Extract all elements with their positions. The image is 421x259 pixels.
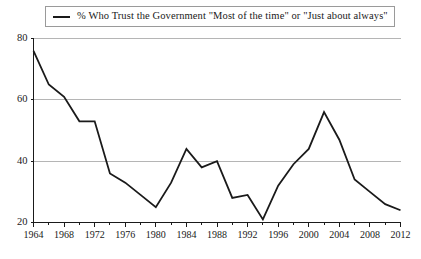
axis-lines xyxy=(34,39,401,223)
x-axis-tick-label: 2004 xyxy=(322,230,356,240)
y-axis-tick-label: 80 xyxy=(4,33,28,44)
x-axis-tick-label: 1968 xyxy=(47,230,81,240)
x-axis-tick-label: 1972 xyxy=(78,230,112,240)
x-axis-tick-label: 1980 xyxy=(139,230,173,240)
x-axis-tick-label: 1992 xyxy=(231,230,265,240)
gridlines xyxy=(34,39,401,162)
x-axis-tick-label: 1996 xyxy=(261,230,295,240)
trust-in-government-chart: % Who Trust the Government "Most of the … xyxy=(0,0,421,259)
x-axis-tick-label: 2008 xyxy=(353,230,387,240)
y-axis-tick-label: 20 xyxy=(4,217,28,228)
x-axis-tick-label: 2012 xyxy=(384,230,418,240)
x-axis-tick-label: 1964 xyxy=(17,230,51,240)
x-axis-tick-label: 1976 xyxy=(108,230,142,240)
y-axis-tick-label: 40 xyxy=(4,156,28,167)
data-series-line xyxy=(34,51,401,220)
x-axis-tick-label: 2000 xyxy=(292,230,326,240)
x-axis-tick-label: 1988 xyxy=(200,230,234,240)
plot-area xyxy=(0,0,421,259)
x-axis-ticks xyxy=(34,223,401,227)
x-axis-tick-label: 1984 xyxy=(169,230,203,240)
y-axis-tick-label: 60 xyxy=(4,94,28,105)
